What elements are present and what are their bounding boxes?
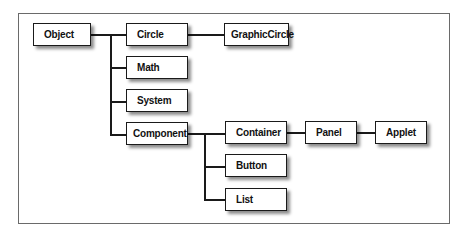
connector-panel-applet [357, 132, 376, 134]
connector-to-system [110, 101, 127, 103]
node-panel: Panel [305, 121, 357, 144]
node-circle: Circle [126, 23, 188, 46]
connector-component-trunk [188, 133, 226, 135]
connector-object-trunk [90, 34, 127, 36]
connector-to-component [110, 134, 127, 136]
node-object: Object [33, 23, 91, 46]
node-container: Container [225, 121, 287, 144]
connector-container-panel [287, 132, 306, 134]
connector-to-button [204, 166, 226, 168]
node-system: System [126, 89, 188, 112]
node-button: Button [225, 154, 287, 177]
connector-object-vertical [110, 34, 112, 135]
node-graphic-circle: GraphicCircle [224, 23, 289, 46]
node-math: Math [126, 56, 188, 79]
node-component: Component [126, 122, 188, 145]
connector-to-list [204, 199, 226, 201]
connector-to-math [110, 67, 127, 69]
node-list: List [225, 188, 287, 211]
connector-circle-graphiccircle [188, 34, 225, 36]
node-applet: Applet [375, 121, 427, 144]
